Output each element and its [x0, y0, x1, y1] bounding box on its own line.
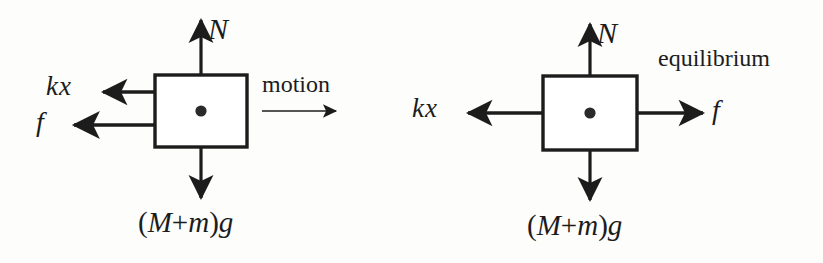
normal-force-label-equilibrium: N [597, 18, 617, 48]
equilibrium-caption: equilibrium [658, 46, 770, 70]
weight-force-label-equilibrium: (M+m)g [527, 211, 622, 240]
weight-gravity-g-motion: g [219, 206, 234, 238]
weight-gravity-g-equilibrium: g [608, 209, 623, 241]
weight-plus-operator-motion: + [172, 206, 188, 238]
diagram-vector-layer [0, 0, 823, 263]
center-of-mass-dot-motion [195, 105, 206, 116]
friction-force-label-motion: f [36, 108, 44, 136]
weight-mass-m-motion: m [188, 206, 209, 238]
weight-mass-M-equilibrium: M [537, 209, 561, 241]
spring-force-label-motion: kx [46, 73, 72, 100]
weight-mass-M-motion: M [148, 206, 172, 238]
spring-force-label-equilibrium: kx [412, 95, 438, 122]
weight-open-paren-equilibrium: ( [527, 209, 537, 241]
weight-open-paren-motion: ( [138, 206, 148, 238]
weight-mass-m-equilibrium: m [577, 209, 598, 241]
weight-close-paren-equilibrium: ) [598, 209, 608, 241]
center-of-mass-dot-equilibrium [584, 107, 595, 118]
normal-force-label-motion: N [208, 14, 228, 44]
motion-caption: motion [262, 72, 330, 96]
diagram-motion [74, 20, 336, 198]
weight-force-label-motion: (M+m)g [138, 208, 233, 237]
weight-close-paren-motion: ) [209, 206, 219, 238]
physics-free-body-diagram-figure: N kx f motion (M+m)g N kx f equilibrium … [0, 0, 823, 263]
weight-plus-operator-equilibrium: + [561, 209, 577, 241]
friction-force-label-equilibrium: f [712, 96, 720, 124]
